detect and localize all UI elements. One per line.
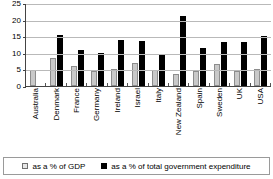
bar-gdp (71, 66, 77, 86)
legend-item[interactable]: as a % of total government expenditure (101, 162, 250, 171)
plot-wrapper: 0510152025 (0, 0, 273, 92)
bar-expenditure (78, 50, 84, 86)
bar-expenditure (180, 16, 186, 86)
plot-area (25, 4, 271, 87)
bar-group (230, 4, 250, 86)
x-category-label: Ireland (114, 88, 122, 112)
bar-expenditure (57, 35, 63, 86)
y-tickmark (23, 37, 26, 38)
bar-group (26, 4, 46, 86)
bar-expenditure (241, 42, 247, 86)
x-category-label: USA (257, 88, 265, 104)
gridline (26, 4, 271, 5)
x-category-cell: Ireland (108, 88, 128, 146)
x-axis-category-labels: AustraliaDenmarkFranceGermanyIrelandIsra… (26, 88, 271, 146)
bar-expenditure (118, 40, 124, 86)
y-tick-label: 20 (12, 17, 21, 25)
y-tickmark (23, 21, 26, 22)
x-category-label: Italy (155, 88, 163, 103)
bar-gdp (111, 69, 117, 86)
legend-item[interactable]: as a % of GDP (22, 162, 85, 171)
legend-swatch-icon (22, 163, 28, 169)
chart-legend: as a % of GDPas a % of total government … (3, 157, 270, 175)
y-tick-label: 10 (12, 50, 21, 58)
bar-expenditure (139, 41, 145, 86)
bar-expenditure (261, 36, 267, 86)
bar-gdp (30, 70, 36, 86)
y-tick-label: 5 (17, 66, 21, 74)
y-tickmark (23, 70, 26, 71)
bar-group (149, 4, 169, 86)
x-category-cell: Australia (26, 88, 46, 146)
y-tickmark (23, 54, 26, 55)
bar-group (189, 4, 209, 86)
x-category-cell: Italy (149, 88, 169, 146)
y-tick-label: 15 (12, 33, 21, 41)
bar-gdp (193, 71, 199, 86)
x-category-cell: Sweden (210, 88, 230, 146)
bar-gdp (50, 58, 56, 86)
bar-group (87, 4, 107, 86)
bar-gdp (214, 64, 220, 86)
x-category-cell: France (67, 88, 87, 146)
x-category-label: UK (236, 88, 244, 99)
bar-gdp (91, 71, 97, 86)
legend-label: as a % of GDP (32, 162, 85, 171)
x-category-label: Israel (134, 88, 142, 108)
x-category-label: Spain (196, 88, 204, 108)
x-category-cell: Israel (128, 88, 148, 146)
bar-gdp (234, 71, 240, 86)
x-category-label: Denmark (53, 88, 61, 120)
bar-chart: 0510152025 AustraliaDenmarkFranceGermany… (0, 0, 273, 179)
bar-group (108, 4, 128, 86)
gridline (26, 21, 271, 22)
bar-group (251, 4, 271, 86)
bar-group (128, 4, 148, 86)
x-category-cell: USA (251, 88, 271, 146)
bar-group (210, 4, 230, 86)
x-tickmark (270, 83, 271, 86)
gridline (26, 37, 271, 38)
x-category-cell: Germany (87, 88, 107, 146)
bars-layer (26, 4, 271, 86)
y-axis: 0510152025 (0, 0, 24, 92)
gridline (26, 70, 271, 71)
legend-label: as a % of total government expenditure (111, 162, 250, 171)
x-category-cell: UK (230, 88, 250, 146)
x-category-label: Australia (32, 88, 40, 119)
x-category-cell: Denmark (46, 88, 66, 146)
bar-expenditure (221, 42, 227, 86)
bar-gdp (132, 63, 138, 86)
x-category-cell: Spain (189, 88, 209, 146)
bar-group (67, 4, 87, 86)
y-tick-label: 0 (17, 83, 21, 91)
y-tickmark (23, 4, 26, 5)
bar-group (46, 4, 66, 86)
gridline (26, 54, 271, 55)
bar-group (169, 4, 189, 86)
bar-gdp (173, 74, 179, 86)
y-tick-label: 25 (12, 0, 21, 8)
x-category-label: Sweden (216, 88, 224, 117)
x-category-label: New Zealand (175, 88, 183, 135)
bar-gdp (152, 70, 158, 86)
x-category-cell: New Zealand (169, 88, 189, 146)
x-category-label: Germany (93, 88, 101, 121)
x-category-label: France (73, 88, 81, 113)
legend-swatch-icon (101, 163, 107, 169)
